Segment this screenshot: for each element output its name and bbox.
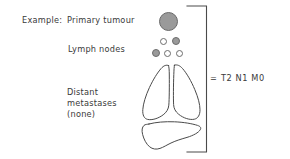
bracket-path (187, 6, 207, 152)
lymph-node-uninvolved (164, 50, 171, 57)
distant-metastases-label-line3: (none) (67, 109, 95, 120)
example-label: Example: (22, 15, 62, 26)
lymph-node-involved (152, 49, 160, 57)
left-lung-outline (143, 65, 170, 120)
tnm-staging-figure: Example: Primary tumour Lymph nodes Dist… (0, 0, 290, 159)
primary-tumour-label: Primary tumour (67, 15, 135, 26)
distant-metastases-label-line1: Distant (67, 87, 98, 98)
distant-metastases-label-line2: metastases (67, 98, 117, 109)
lymph-node-uninvolved (160, 38, 167, 45)
grouping-bracket (186, 5, 208, 153)
lymph-node-involved (172, 37, 180, 45)
lymph-nodes-label: Lymph nodes (68, 44, 125, 55)
tnm-stage-value: T2 N1 M0 (221, 73, 265, 84)
lymph-node-uninvolved (176, 50, 183, 57)
primary-tumour-circle (159, 12, 178, 31)
equals-sign: = (210, 73, 217, 84)
